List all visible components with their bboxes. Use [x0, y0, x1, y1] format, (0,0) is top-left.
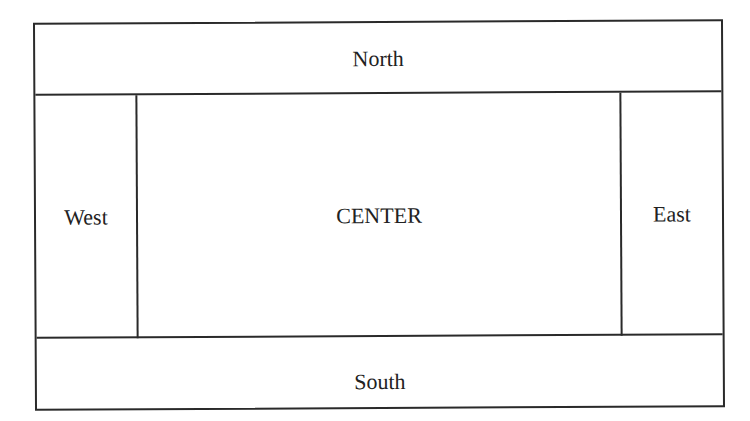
- border-layout-diagram: North West CENTER East South: [33, 19, 725, 411]
- center-label: CENTER: [336, 202, 422, 228]
- south-label: South: [354, 369, 405, 395]
- east-region: East: [619, 92, 722, 336]
- center-region: CENTER: [137, 93, 620, 339]
- north-region: North: [35, 21, 721, 96]
- west-label: West: [64, 204, 108, 230]
- north-label: North: [352, 45, 403, 71]
- south-region: South: [37, 333, 723, 409]
- west-region: West: [35, 95, 138, 339]
- east-label: East: [653, 201, 691, 227]
